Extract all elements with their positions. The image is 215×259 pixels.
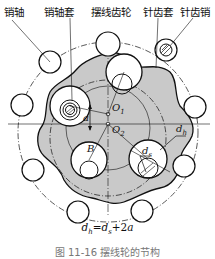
- formula: dh=ds+2a: [0, 221, 215, 236]
- label-pin-shaft-sleeve: 销轴套: [44, 4, 74, 19]
- label-dh: dh: [176, 123, 187, 137]
- label-o2: O2: [112, 124, 125, 138]
- label-needle-tooth-pin: 针齿销: [180, 4, 210, 19]
- label-cycloid-gear: 摆线齿轮: [91, 4, 131, 19]
- label-o1: O1: [112, 102, 125, 116]
- label-pin-shaft: 销轴: [4, 4, 24, 19]
- label-a: a: [83, 112, 89, 123]
- label-needle-tooth-sleeve: 针齿套: [143, 4, 173, 19]
- label-b: B: [87, 143, 94, 154]
- figure-caption: 图 11-16 摆线轮的节构: [0, 244, 215, 259]
- label-ds: ds: [142, 145, 152, 159]
